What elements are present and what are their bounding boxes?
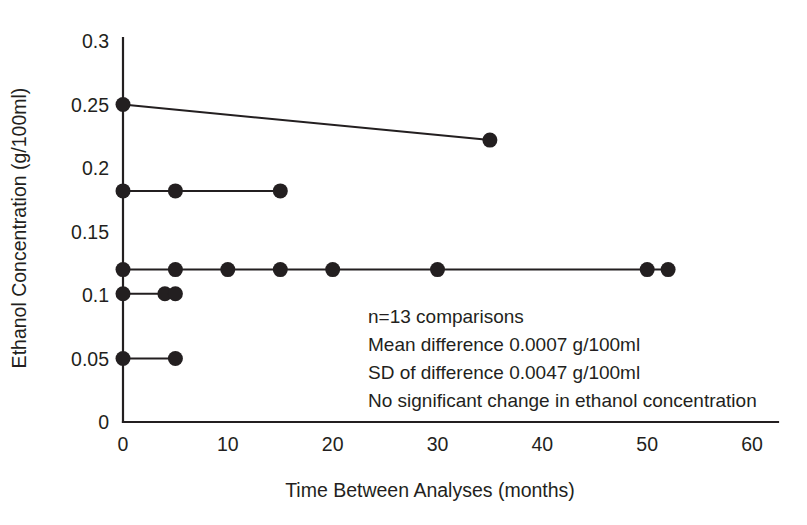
data-point — [168, 262, 183, 277]
y-axis-title: Ethanol Concentration (g/100ml) — [8, 88, 30, 369]
data-point — [116, 286, 131, 301]
data-point — [482, 133, 497, 148]
y-tick-label: 0.2 — [82, 157, 109, 179]
y-tick-label: 0.05 — [71, 348, 109, 370]
annotation-line: No significant change in ethanol concent… — [368, 390, 757, 411]
data-point — [430, 262, 445, 277]
data-point — [168, 183, 183, 198]
x-tick-label: 30 — [427, 433, 449, 455]
annotation-line: n=13 comparisons — [368, 306, 524, 327]
annotation-line: Mean difference 0.0007 g/100ml — [368, 334, 640, 355]
data-point — [273, 183, 288, 198]
data-point — [116, 262, 131, 277]
x-axis-title: Time Between Analyses (months) — [285, 479, 575, 501]
data-point — [116, 183, 131, 198]
x-tick-label: 40 — [531, 433, 553, 455]
x-tick-label: 20 — [322, 433, 344, 455]
x-tick-label: 0 — [118, 433, 129, 455]
data-point — [116, 97, 131, 112]
data-point — [640, 262, 655, 277]
data-point — [220, 262, 235, 277]
y-tick-label: 0.25 — [71, 94, 109, 116]
y-tick-label: 0 — [98, 411, 109, 433]
data-point — [273, 262, 288, 277]
x-tick-label: 60 — [741, 433, 763, 455]
data-point — [168, 351, 183, 366]
data-point — [661, 262, 676, 277]
data-point — [116, 351, 131, 366]
y-tick-label: 0.3 — [82, 30, 109, 52]
y-tick-label: 0.1 — [82, 284, 109, 306]
x-tick-label: 50 — [636, 433, 658, 455]
x-tick-label: 10 — [217, 433, 239, 455]
chart-container: 00.050.10.150.20.250.3 0102030405060 n=1… — [0, 0, 807, 525]
y-tick-label: 0.15 — [71, 221, 109, 243]
data-point — [325, 262, 340, 277]
scatter-plot-svg: 00.050.10.150.20.250.3 0102030405060 n=1… — [0, 0, 807, 525]
annotation-line: SD of difference 0.0047 g/100ml — [368, 362, 640, 383]
data-point — [168, 286, 183, 301]
